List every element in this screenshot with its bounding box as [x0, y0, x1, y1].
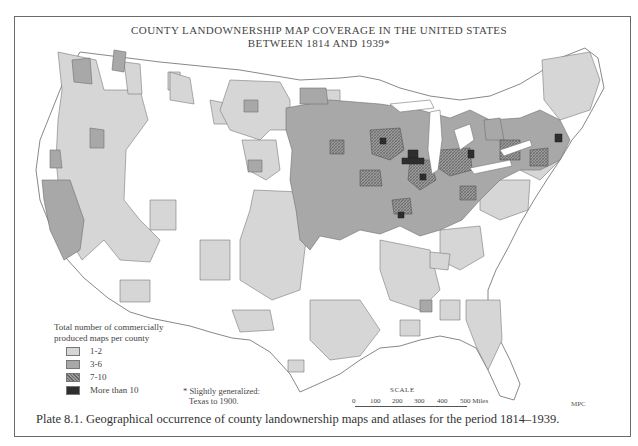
scale-tick: 300 — [414, 397, 425, 405]
scale-tick: 400 — [437, 397, 448, 405]
legend-label: 3-6 — [90, 359, 102, 370]
footnote: * Slightly generalized: Texas to 1900. — [183, 386, 260, 406]
scale-tick: 100 — [370, 397, 381, 405]
footnote-line1: * Slightly generalized: — [183, 386, 260, 396]
footnote-line2: Texas to 1900. — [183, 396, 260, 406]
legend-label: More than 10 — [90, 385, 139, 396]
scale-label: SCALE — [390, 386, 415, 394]
scale-tick: 0 — [352, 397, 356, 405]
plate-caption: Plate 8.1. Geographical occurrence of co… — [36, 412, 559, 427]
legend-item-1-2: 1-2 — [66, 346, 164, 357]
legend-label: 1-2 — [90, 346, 102, 357]
legend-item-over-10: More than 10 — [66, 385, 164, 396]
legend-item-3-6: 3-6 — [66, 359, 164, 370]
scale-tick: 200 — [392, 397, 403, 405]
legend-swatch-over-10 — [66, 386, 80, 395]
legend: Total number of commercially produced ma… — [54, 322, 164, 396]
legend-label: 7-10 — [90, 372, 107, 383]
legend-swatch-3-6 — [66, 360, 80, 369]
scale-tick: 500 Miles — [460, 397, 488, 405]
legend-swatch-7-10 — [66, 373, 80, 382]
credit: MPC — [571, 400, 586, 408]
legend-swatch-1-2 — [66, 347, 80, 356]
scale-line — [355, 406, 467, 407]
legend-header: Total number of commercially produced ma… — [54, 322, 164, 344]
legend-item-7-10: 7-10 — [66, 372, 164, 383]
